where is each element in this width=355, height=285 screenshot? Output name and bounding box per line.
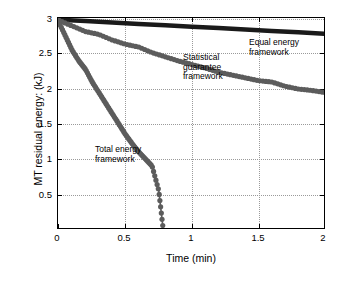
series-line-0 xyxy=(59,20,325,34)
series-marker xyxy=(152,173,157,178)
series-marker xyxy=(153,178,158,183)
xticklabel-0: 0 xyxy=(54,232,59,243)
series-marker xyxy=(159,210,164,215)
yticklabel-3: 3 xyxy=(47,12,52,23)
series-marker xyxy=(150,164,155,169)
yticklabel-1: 1 xyxy=(47,153,52,164)
xticklabel-2: 2 xyxy=(320,232,325,243)
series-marker xyxy=(159,217,164,222)
series-marker xyxy=(157,192,162,197)
tick-x-2 xyxy=(324,224,325,228)
series-marker xyxy=(157,198,162,203)
xticklabel-0.5: 0.5 xyxy=(117,232,130,243)
yticklabel-2: 2 xyxy=(47,82,52,93)
series-marker xyxy=(155,182,160,187)
series-marker xyxy=(151,169,156,174)
annotation-equal-energy: Equal energy framework xyxy=(249,38,299,57)
xticklabel-1: 1 xyxy=(188,232,193,243)
series-marker xyxy=(160,223,165,228)
annotation-statistical-guarantee: Statistical guarantee framework xyxy=(183,53,223,82)
x-axis-label: Time (min) xyxy=(57,252,325,264)
y-axis-label: MT residual energy: (kJ) xyxy=(32,29,44,229)
series-marker xyxy=(158,204,163,209)
xticklabel-1.5: 1.5 xyxy=(251,232,264,243)
annotation-total-energy: Total energy framework xyxy=(95,145,141,164)
chart-figure: Equal energy framework Statistical guara… xyxy=(0,0,355,285)
series-marker xyxy=(156,186,161,191)
plot-area: Equal energy framework Statistical guara… xyxy=(57,17,325,229)
